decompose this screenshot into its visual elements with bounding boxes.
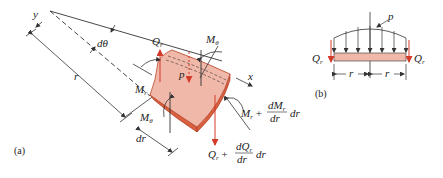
- radius-label: r: [74, 70, 79, 82]
- caption-a: (a): [14, 145, 25, 157]
- y-axis-label: y: [32, 8, 38, 20]
- Qr-label: Qr: [152, 35, 163, 49]
- r-right-label: r: [385, 67, 390, 79]
- Qr-left-label: Qr: [312, 52, 323, 66]
- plate-section: [334, 53, 406, 61]
- pressure-arrows: [334, 26, 406, 52]
- dtheta-label: dθ: [97, 37, 109, 49]
- caption-b: (b): [315, 88, 327, 100]
- Mr-plus-numerator: dMr: [268, 99, 286, 113]
- Qr-plus-label: Qr+: [208, 148, 228, 162]
- r-left-label: r: [349, 67, 354, 79]
- figure-a: y r dθ dr Qr p Mθ: [14, 8, 301, 165]
- plate-element-diagram: y r dθ dr Qr p Mθ: [0, 0, 443, 178]
- Qr-right-label: Qr: [414, 52, 425, 66]
- Qr-plus-tail: dr: [256, 148, 267, 160]
- radius-dimension: [32, 34, 125, 117]
- figure-b: p Qr Qr r r (b): [312, 10, 425, 100]
- Qr-plus-denominator: dr: [237, 153, 248, 165]
- dr-label: dr: [136, 132, 147, 144]
- Mr-plus-tail: dr: [290, 107, 301, 119]
- Qr-plus-numerator: dQr: [236, 140, 252, 154]
- y-axis-arrow: [36, 22, 42, 27]
- Mr-plus-denominator: dr: [270, 112, 281, 124]
- element-top-face: [150, 50, 230, 127]
- x-axis-label: x: [247, 70, 253, 82]
- p-label-b: p: [387, 10, 394, 22]
- Mtheta-left-label: Mθ: [139, 111, 153, 125]
- p-label: p: [178, 68, 185, 80]
- Mr-plus-label: Mr+: [240, 107, 262, 121]
- Mr-label: Mr: [134, 83, 147, 97]
- Mtheta-top-label: Mθ: [205, 33, 219, 47]
- sector-edge-top: [50, 11, 222, 61]
